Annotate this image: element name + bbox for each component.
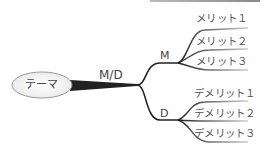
trunk-label: M/D	[99, 69, 123, 81]
leaf-demerit-2: デメリット２	[194, 108, 256, 119]
leaf-demerit-1: デメリット１	[194, 88, 256, 99]
leaf-merit-2: メリット２	[196, 36, 248, 47]
branch-label-d: D	[160, 108, 168, 119]
root-node-label: テーマ	[25, 79, 58, 90]
leaf-merit-3: メリット３	[196, 56, 248, 67]
branch-label-m: M	[160, 50, 170, 61]
leaf-demerit-3: デメリット３	[194, 128, 256, 139]
leaf-merit-1: メリット１	[196, 13, 248, 24]
